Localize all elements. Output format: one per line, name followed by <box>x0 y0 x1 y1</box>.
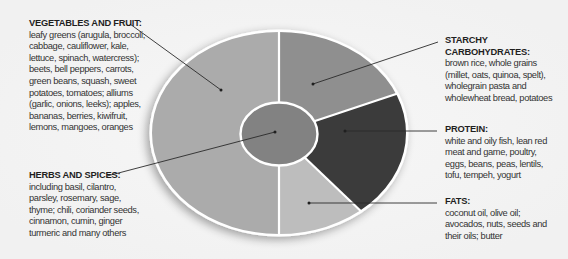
label-body: white and oily fish, lean red meat and g… <box>445 136 547 182</box>
label-fats: FATS: coconut oil, olive oil; avocados, … <box>445 196 547 242</box>
label-title: STARCHY CARBOHYDRATES: <box>445 35 568 58</box>
healthy-plate-diagram: VEGETABLES AND FRUIT: leafy greens (arug… <box>0 0 568 259</box>
dot-starchy <box>312 83 315 86</box>
label-protein: PROTEIN: white and oily fish, lean red m… <box>445 124 547 182</box>
label-body: brown rice, whole grains (millet, oats, … <box>445 58 568 104</box>
label-vegetables-and-fruit: VEGETABLES AND FRUIT: leafy greens (arug… <box>29 18 145 134</box>
dot-herbs <box>274 131 277 134</box>
segment-herbs-and-spices <box>241 103 318 166</box>
label-body: leafy greens (arugula, broccoli, cabbage… <box>29 30 145 134</box>
label-title: HERBS AND SPICES: <box>29 170 139 182</box>
label-body: coconut oil, olive oil; avocados, nuts, … <box>445 208 547 243</box>
label-herbs-and-spices: HERBS AND SPICES: including basil, cilan… <box>29 170 139 240</box>
dot-protein <box>344 130 347 133</box>
dot-vegetables <box>220 89 223 92</box>
label-title: FATS: <box>445 196 547 208</box>
label-body: including basil, cilantro, parsley, rose… <box>29 182 139 240</box>
label-title: VEGETABLES AND FRUIT: <box>29 18 145 30</box>
dot-fats <box>308 202 311 205</box>
label-title: PROTEIN: <box>445 124 547 136</box>
label-starchy-carbohydrates: STARCHY CARBOHYDRATES: brown rice, whole… <box>445 35 568 105</box>
